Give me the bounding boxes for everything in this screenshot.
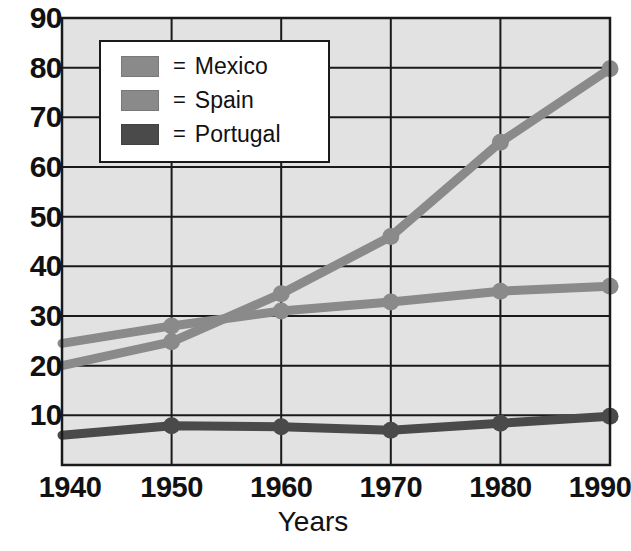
legend-item-portugal: = Portugal: [121, 117, 328, 151]
legend-equals-portugal: =: [173, 123, 186, 145]
legend-label-mexico: Mexico: [195, 55, 268, 78]
x-tick-label-1950: 1950: [140, 473, 203, 502]
x-tick-label-1990: 1990: [569, 473, 631, 502]
legend-swatch-spain: [121, 90, 159, 111]
x-tick-label-1960: 1960: [250, 473, 313, 502]
legend-swatch-mexico: [121, 56, 159, 77]
x-tick-label-1980: 1980: [469, 473, 532, 502]
x-tick-label-1970: 1970: [360, 473, 423, 502]
x-axis-title: Years: [0, 508, 626, 536]
x-tick-label-1940: 1940: [39, 473, 102, 502]
legend-swatch-portugal: [121, 124, 159, 145]
legend-label-spain: Spain: [195, 89, 254, 112]
legend-item-spain: = Spain: [121, 83, 328, 117]
chart-legend: = Mexico = Spain = Portugal: [99, 40, 330, 163]
legend-equals-spain: =: [173, 89, 186, 111]
legend-equals-mexico: =: [173, 55, 186, 77]
legend-item-mexico: = Mexico: [121, 49, 328, 83]
legend-label-portugal: Portugal: [195, 123, 281, 146]
